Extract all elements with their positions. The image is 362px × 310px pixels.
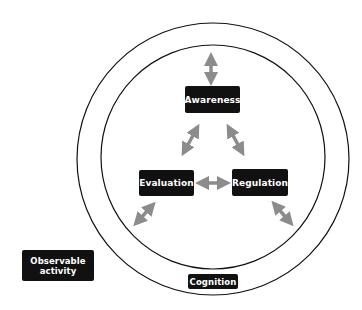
awareness-node: Awareness	[185, 86, 240, 113]
regulation-node: Regulation	[232, 169, 288, 196]
arrow-evaluation-outer	[138, 207, 151, 221]
observable-line-1: Observable	[30, 256, 85, 266]
evaluation-node: Evaluation	[139, 170, 194, 196]
outer-circle	[77, 23, 349, 295]
cognition-label: Cognition	[188, 274, 238, 289]
arrow-regulation-outer	[276, 206, 289, 221]
observable-line-2: activity	[40, 266, 77, 276]
arrow-awareness-evaluation	[185, 130, 196, 150]
inner-circle	[101, 45, 325, 269]
arrows	[138, 59, 289, 221]
observable-activity-label: Observable activity	[22, 250, 94, 281]
arrow-awareness-regulation	[230, 130, 241, 150]
